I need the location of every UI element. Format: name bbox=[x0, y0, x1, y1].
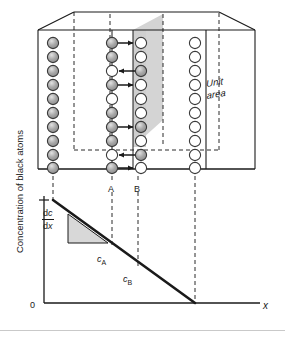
cb-subscript: B bbox=[128, 279, 133, 286]
atom-white bbox=[189, 162, 200, 173]
x-axis-label: x bbox=[263, 300, 268, 311]
atom-white bbox=[189, 79, 200, 90]
atom-gray bbox=[47, 79, 58, 90]
jump-arrows bbox=[118, 43, 135, 168]
atom-gray bbox=[106, 107, 117, 118]
concentration-b-label: cB bbox=[123, 274, 132, 286]
atom-gray bbox=[47, 107, 58, 118]
atom-white bbox=[135, 51, 146, 62]
atom-white bbox=[135, 135, 146, 146]
atom-gray bbox=[106, 79, 117, 90]
y-axis-zero-label: 0 bbox=[30, 300, 35, 310]
atom-gray bbox=[106, 135, 117, 146]
atom-gray bbox=[47, 65, 58, 76]
atom-gray bbox=[47, 93, 58, 104]
slope-fraction-label: dc dx bbox=[42, 208, 54, 231]
atom-gray bbox=[106, 162, 117, 173]
atom-white bbox=[106, 65, 117, 76]
atom-white bbox=[135, 162, 146, 173]
atom-white bbox=[135, 37, 146, 48]
plane-b-label: B bbox=[134, 184, 140, 194]
atom-field bbox=[47, 37, 200, 173]
atom-white bbox=[189, 51, 200, 62]
figure-canvas bbox=[0, 0, 285, 338]
atom-white bbox=[106, 93, 117, 104]
plane-a-label: A bbox=[108, 184, 114, 194]
atom-white bbox=[135, 93, 146, 104]
atom-white bbox=[189, 107, 200, 118]
y-axis-label: Concentration of black atoms bbox=[14, 127, 25, 257]
concentration-a-label: cA bbox=[97, 254, 106, 266]
unit-area-label: Unit area bbox=[206, 75, 226, 102]
atom-gray bbox=[106, 121, 117, 132]
atom-gray bbox=[47, 51, 58, 62]
atom-white bbox=[189, 65, 200, 76]
atom-column-left bbox=[47, 37, 58, 173]
atom-column-right bbox=[189, 37, 200, 173]
bottom-divider bbox=[0, 330, 285, 331]
slope-triangle bbox=[68, 214, 108, 243]
slope-denominator: dx bbox=[42, 220, 54, 231]
atom-gray bbox=[106, 37, 117, 48]
atom-white bbox=[189, 37, 200, 48]
atom-gray bbox=[47, 121, 58, 132]
atom-gray bbox=[106, 51, 117, 62]
atom-white bbox=[189, 149, 200, 160]
atom-white bbox=[135, 107, 146, 118]
atom-gray bbox=[135, 121, 146, 132]
atom-gray bbox=[47, 37, 58, 48]
atom-white bbox=[189, 121, 200, 132]
atom-gray bbox=[47, 149, 58, 160]
atom-gray bbox=[135, 65, 146, 76]
ca-subscript: A bbox=[102, 259, 107, 266]
unit-area-line2: area bbox=[206, 87, 225, 101]
atom-gray bbox=[47, 135, 58, 146]
atom-white bbox=[189, 135, 200, 146]
atom-gray bbox=[135, 149, 146, 160]
atom-gray bbox=[47, 162, 58, 173]
concentration-line bbox=[53, 200, 195, 303]
atom-white bbox=[135, 79, 146, 90]
graph-axes bbox=[39, 196, 260, 303]
atom-white bbox=[106, 149, 117, 160]
diffusion-figure: Unit area A B cA cB dc dx 0 x Concentrat… bbox=[0, 0, 285, 338]
slope-numerator: dc bbox=[42, 208, 54, 220]
atom-white bbox=[189, 93, 200, 104]
